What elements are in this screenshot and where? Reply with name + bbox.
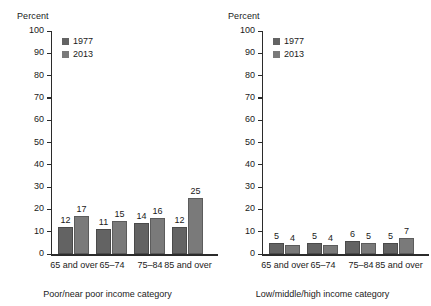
y-axis-tick <box>258 97 262 98</box>
bar-1977-1 <box>269 243 284 254</box>
y-axis-tick-label: 50 <box>11 137 44 147</box>
y-axis-tick <box>47 120 51 121</box>
bar-2013-3 <box>150 218 165 254</box>
y-axis-tick <box>47 254 51 255</box>
y-axis-tick-label: 0 <box>222 248 255 258</box>
bar-2013-2 <box>112 221 127 254</box>
y-axis-tick <box>47 53 51 54</box>
bar-2013-2 <box>323 245 338 254</box>
y-axis-tick <box>258 164 262 165</box>
legend-swatch-icon <box>273 38 280 45</box>
y-axis-tick-label: 60 <box>222 114 255 124</box>
y-axis-unit-label: Percent <box>17 11 49 21</box>
bar-value-label: 25 <box>182 186 209 196</box>
y-axis-tick-label: 70 <box>222 92 255 102</box>
bar-2013-4 <box>399 238 414 254</box>
y-axis-tick-label: 90 <box>11 47 44 57</box>
x-axis-category-label: 85 and over <box>375 260 423 271</box>
bar-2013-1 <box>285 245 300 254</box>
y-axis-unit-label: Percent <box>228 11 260 21</box>
legend-swatch-icon <box>62 38 69 45</box>
y-axis-tick <box>47 164 51 165</box>
y-axis-tick-label: 100 <box>11 25 44 35</box>
y-axis-tick <box>47 97 51 98</box>
y-axis-tick-label: 100 <box>222 25 255 35</box>
y-axis-tick-label: 20 <box>11 203 44 213</box>
y-axis-tick <box>258 53 262 54</box>
y-axis-tick-label: 60 <box>11 114 44 124</box>
bar-1977-2 <box>307 243 322 254</box>
y-axis-tick <box>258 209 262 210</box>
y-axis-tick-label: 40 <box>222 159 255 169</box>
bar-1977-4 <box>383 243 398 254</box>
bar-value-label: 17 <box>68 204 95 214</box>
y-axis-tick <box>47 142 51 143</box>
legend-swatch-icon <box>273 51 280 58</box>
bar-1977-2 <box>96 229 111 254</box>
legend: 19772013 <box>273 35 304 61</box>
y-axis-tick <box>258 187 262 188</box>
legend-item-1977[interactable]: 1977 <box>273 35 304 47</box>
y-axis-tick-label: 10 <box>222 226 255 236</box>
y-axis-tick <box>47 187 51 188</box>
y-axis-tick-label: 80 <box>11 70 44 80</box>
y-axis-tick <box>258 75 262 76</box>
y-axis-tick-label: 0 <box>11 248 44 258</box>
y-axis-tick <box>258 142 262 143</box>
y-axis-tick-label: 40 <box>11 159 44 169</box>
y-axis-tick-label: 70 <box>11 92 44 102</box>
y-axis-tick <box>47 209 51 210</box>
legend-item-1977[interactable]: 1977 <box>62 35 93 47</box>
legend-item-2013[interactable]: 2013 <box>62 48 93 60</box>
chart-panel-low-middle-high: Percent010203040506070809010019772013546… <box>215 0 430 306</box>
bar-1977-3 <box>345 241 360 254</box>
y-axis-tick <box>47 31 51 32</box>
legend-swatch-icon <box>62 51 69 58</box>
y-axis-line <box>262 31 263 254</box>
y-axis-tick-label: 90 <box>222 47 255 57</box>
bar-value-label: 7 <box>393 226 420 236</box>
y-axis-tick-label: 30 <box>222 181 255 191</box>
x-axis-title: Poor/near poor income category <box>0 289 215 299</box>
chart-panel-poor-near-poor: Percent010203040506070809010019772013121… <box>0 0 215 306</box>
y-axis-tick-label: 50 <box>222 137 255 147</box>
legend-label: 1977 <box>284 37 304 46</box>
y-axis-tick <box>258 31 262 32</box>
bar-1977-4 <box>172 227 187 254</box>
x-axis-line <box>262 254 429 256</box>
legend-label: 1977 <box>73 37 93 46</box>
x-axis-title: Low/middle/high income category <box>215 289 430 299</box>
y-axis-tick-label: 30 <box>11 181 44 191</box>
y-axis-tick <box>47 231 51 232</box>
bar-2013-1 <box>74 216 89 254</box>
legend-label: 2013 <box>284 50 304 59</box>
legend-item-2013[interactable]: 2013 <box>273 48 304 60</box>
y-axis-tick <box>258 120 262 121</box>
legend-label: 2013 <box>73 50 93 59</box>
y-axis-tick-label: 10 <box>11 226 44 236</box>
y-axis-tick-label: 80 <box>222 70 255 80</box>
x-axis-category-label: 85 and over <box>164 260 212 271</box>
x-axis-line <box>51 254 218 256</box>
y-axis-tick <box>258 231 262 232</box>
y-axis-tick-label: 20 <box>222 203 255 213</box>
y-axis-tick <box>258 254 262 255</box>
legend: 19772013 <box>62 35 93 61</box>
y-axis-tick <box>47 75 51 76</box>
bar-1977-3 <box>134 223 149 254</box>
bar-2013-4 <box>188 198 203 254</box>
bar-1977-1 <box>58 227 73 254</box>
bar-2013-3 <box>361 243 376 254</box>
